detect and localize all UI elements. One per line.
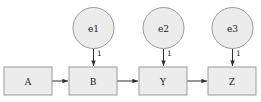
node-z[interactable]: Z bbox=[208, 67, 256, 95]
edge-e1-to-b-label: 1 bbox=[97, 49, 102, 58]
path-diagram-canvas: 1 1 1 A B bbox=[0, 0, 261, 102]
node-e3-label: e3 bbox=[227, 24, 238, 34]
edge-e2-to-y-label: 1 bbox=[167, 49, 172, 58]
node-b[interactable]: B bbox=[69, 67, 117, 95]
node-y-label: Y bbox=[159, 77, 167, 87]
node-e2-label: e2 bbox=[158, 24, 169, 34]
node-y[interactable]: Y bbox=[139, 67, 187, 95]
node-a-label: A bbox=[24, 77, 32, 87]
edge-e2-to-y: 1 bbox=[164, 49, 172, 67]
node-z-label: Z bbox=[229, 77, 235, 87]
edge-e3-to-z: 1 bbox=[233, 49, 241, 67]
edge-e1-to-b: 1 bbox=[94, 49, 102, 67]
node-e3[interactable]: e3 bbox=[212, 8, 253, 49]
node-e1[interactable]: e1 bbox=[73, 8, 114, 49]
node-e1-label: e1 bbox=[88, 24, 99, 34]
latent-node-layer: e1 e2 e3 bbox=[73, 8, 253, 49]
node-b-label: B bbox=[90, 77, 97, 87]
path-diagram-svg: 1 1 1 A B bbox=[0, 0, 261, 102]
edge-e3-to-z-label: 1 bbox=[236, 49, 241, 58]
node-a[interactable]: A bbox=[4, 67, 52, 95]
node-e2[interactable]: e2 bbox=[143, 8, 184, 49]
